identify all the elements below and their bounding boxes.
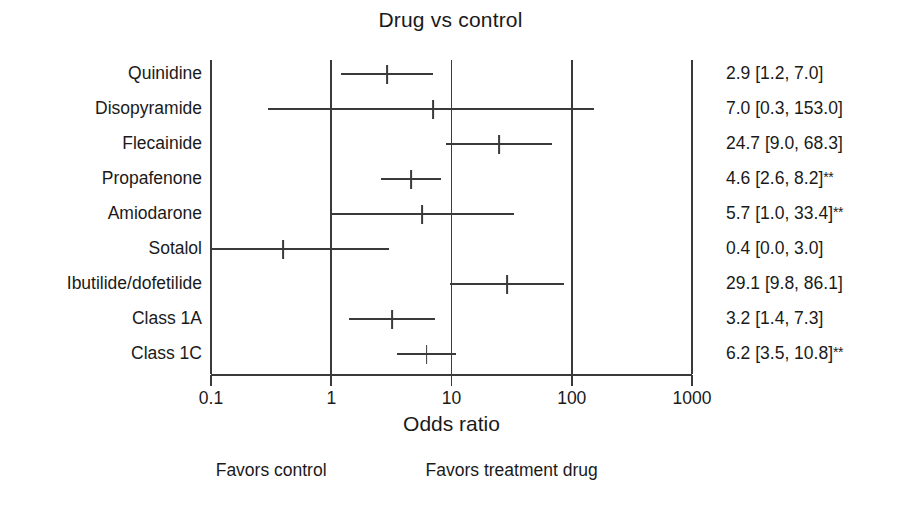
- reference-line: [691, 60, 693, 374]
- effect-estimate-text: 5.7 [1.0, 33.4]**: [726, 205, 843, 223]
- reference-line: [571, 60, 573, 374]
- point-estimate-marker: [282, 240, 284, 259]
- favors-treatment-annotation: Favors treatment drug: [426, 460, 598, 481]
- effect-estimate-column: 2.9 [1.2, 7.0]7.0 [0.3, 153.0]24.7 [9.0,…: [726, 0, 901, 505]
- reference-line: [210, 60, 212, 374]
- forest-plot-figure: Drug vs control QuinidineDisopyramideFle…: [0, 0, 901, 505]
- significance-marker: **: [823, 169, 833, 185]
- point-estimate-marker: [432, 100, 434, 119]
- confidence-interval-line: [211, 248, 389, 250]
- x-axis-tick-label: 100: [557, 388, 586, 409]
- effect-estimate-text: 7.0 [0.3, 153.0]: [726, 100, 843, 118]
- point-estimate-marker: [410, 170, 412, 189]
- reference-line: [451, 60, 453, 374]
- point-estimate-marker: [498, 135, 500, 154]
- x-axis-tick: [210, 375, 212, 386]
- point-estimate-marker: [386, 65, 388, 84]
- effect-estimate-text: 29.1 [9.8, 86.1]: [726, 275, 843, 293]
- x-axis-tick-label: 10: [442, 388, 461, 409]
- x-axis-title: Odds ratio: [211, 412, 692, 436]
- point-estimate-marker: [421, 205, 423, 224]
- effect-estimate-text: 2.9 [1.2, 7.0]: [726, 65, 823, 83]
- null-reference-line: [330, 60, 332, 374]
- significance-marker: **: [833, 344, 843, 360]
- effect-estimate-text: 0.4 [0.0, 3.0]: [726, 240, 823, 258]
- point-estimate-marker: [426, 345, 428, 364]
- x-axis-tick: [330, 375, 332, 386]
- effect-estimate-text: 4.6 [2.6, 8.2]**: [726, 170, 833, 188]
- x-axis-tick: [571, 375, 573, 386]
- x-axis-tick: [451, 375, 453, 386]
- effect-estimate-text: 3.2 [1.4, 7.3]: [726, 310, 823, 328]
- x-axis-tick: [691, 375, 693, 386]
- x-axis-tick-label: 0.1: [199, 388, 223, 409]
- effect-estimate-text: 6.2 [3.5, 10.8]**: [726, 345, 843, 363]
- significance-marker: **: [833, 204, 843, 220]
- effect-estimate-text: 24.7 [9.0, 68.3]: [726, 135, 843, 153]
- x-axis-tick-label: 1: [326, 388, 336, 409]
- point-estimate-marker: [506, 275, 508, 294]
- x-axis-tick-label: 1000: [673, 388, 712, 409]
- point-estimate-marker: [391, 310, 393, 329]
- favors-control-annotation: Favors control: [216, 460, 327, 481]
